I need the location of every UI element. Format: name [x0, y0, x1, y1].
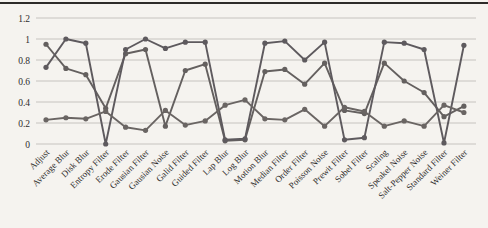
series-2-marker — [223, 137, 228, 142]
series-3-marker — [43, 117, 48, 122]
series-1-marker — [461, 104, 466, 109]
y-tick-label: 0.8 — [18, 56, 30, 66]
series-1-marker — [382, 61, 387, 66]
series-2-marker — [262, 41, 267, 46]
series-3-marker — [103, 109, 108, 114]
series-2-marker — [322, 40, 327, 45]
series-2-marker — [83, 41, 88, 46]
series-1-marker — [83, 72, 88, 77]
series-1-marker — [282, 67, 287, 72]
series-2-marker — [183, 40, 188, 45]
series-3-marker — [123, 125, 128, 130]
series-1-marker — [63, 66, 68, 71]
series-2-marker — [63, 36, 68, 41]
series-1-marker — [322, 61, 327, 66]
series-1-marker — [183, 68, 188, 73]
line-chart: 00.20.40.60.811.2AdjustAverage BlurDisk … — [0, 0, 488, 228]
series-2-marker — [402, 41, 407, 46]
series-1-marker — [143, 47, 148, 52]
series-3-marker — [422, 124, 427, 129]
series-3-marker — [262, 116, 267, 121]
y-tick-label: 1.2 — [18, 14, 30, 24]
y-tick-label: 1 — [25, 35, 30, 45]
series-3-marker — [342, 105, 347, 110]
y-tick-label: 0.6 — [18, 77, 30, 87]
series-1-marker — [163, 124, 168, 129]
series-2-marker — [362, 135, 367, 140]
series-2-marker — [43, 65, 48, 70]
series-3-marker — [382, 124, 387, 129]
series-2-marker — [242, 136, 247, 141]
series-1-marker — [402, 78, 407, 83]
series-1-marker — [43, 42, 48, 47]
series-3-marker — [402, 118, 407, 123]
series-2-marker — [123, 47, 128, 52]
series-2-marker — [203, 40, 208, 45]
series-3-marker — [362, 109, 367, 114]
series-2-marker — [461, 43, 466, 48]
series-3-marker — [183, 123, 188, 128]
series-2-marker — [103, 141, 108, 146]
series-3-marker — [242, 97, 247, 102]
series-2-line — [46, 39, 464, 144]
series-1-marker — [422, 90, 427, 95]
series-3-marker — [223, 103, 228, 108]
series-3-marker — [63, 115, 68, 120]
series-2-marker — [342, 137, 347, 142]
series-3-marker — [322, 124, 327, 129]
y-tick-label: 0.2 — [18, 119, 30, 129]
series-2-marker — [302, 57, 307, 62]
series-3-marker — [203, 118, 208, 123]
series-3-marker — [143, 128, 148, 133]
series-1-marker — [262, 69, 267, 74]
series-2-marker — [422, 47, 427, 52]
series-2-marker — [163, 46, 168, 51]
y-tick-label: 0.4 — [18, 98, 30, 108]
series-2-marker — [282, 39, 287, 44]
series-3-marker — [282, 117, 287, 122]
series-3-marker — [163, 108, 168, 113]
scanned-chart-page: 00.20.40.60.811.2AdjustAverage BlurDisk … — [0, 0, 488, 228]
series-3-marker — [461, 110, 466, 115]
series-2-marker — [382, 40, 387, 45]
series-2-marker — [143, 36, 148, 41]
series-1-marker — [302, 82, 307, 87]
series-3-marker — [441, 103, 446, 108]
y-tick-label: 0 — [25, 140, 30, 150]
series-3-marker — [302, 107, 307, 112]
series-1-marker — [441, 114, 446, 119]
series-2-marker — [441, 140, 446, 145]
series-3-marker — [83, 116, 88, 121]
series-1-marker — [203, 62, 208, 67]
